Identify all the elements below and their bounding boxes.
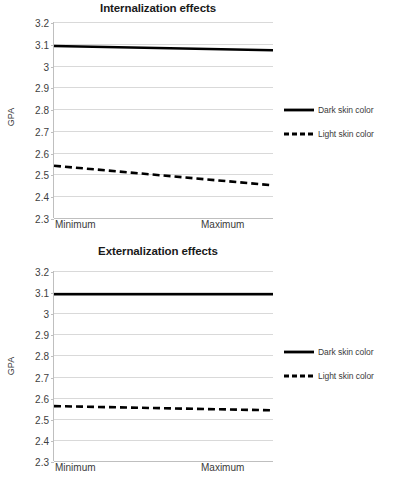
x-axis-labels-internalization: Minimum Maximum <box>53 219 285 235</box>
legend-label-light-skin-color: Light skin color <box>318 371 374 381</box>
y-tick-label: 2.7 <box>35 126 49 137</box>
legend-dashed-line-icon <box>284 371 314 381</box>
y-tick-label: 3.2 <box>35 18 49 29</box>
plot-area-externalization: 3.2 3.1 3 2.9 2.8 2.7 <box>53 271 273 461</box>
y-tick-label: 2.3 <box>35 457 49 468</box>
legend-internalization: Dark skin color Light skin color <box>284 103 396 151</box>
y-tick-label: 3.2 <box>35 267 49 278</box>
series-line-light-skin-color <box>54 166 273 186</box>
y-tick-label: 2.9 <box>35 83 49 94</box>
legend-dashed-line-icon <box>284 129 314 139</box>
panel-externalization: Externalization effects GPA 3.2 3.1 3 2.… <box>0 243 396 485</box>
y-tick-label: 3 <box>43 61 49 72</box>
y-tick-label: 3.1 <box>35 39 49 50</box>
x-axis-labels-externalization: Minimum Maximum <box>53 462 285 478</box>
y-tick-label: 2.5 <box>35 414 49 425</box>
y-tick-label: 2.6 <box>35 148 49 159</box>
x-tick-label-maximum: Maximum <box>201 219 244 230</box>
two-panel-line-chart-figure: Internalization effects GPA 3.2 3.1 3 2.… <box>0 0 396 485</box>
legend-item-light-skin-color: Light skin color <box>284 127 396 140</box>
legend-label-light-skin-color: Light skin color <box>318 129 374 139</box>
series-line-dark-skin-color <box>54 46 273 50</box>
y-tick-label: 2.4 <box>35 192 49 203</box>
y-tick-label: 2.3 <box>35 214 49 225</box>
series-lines-externalization <box>54 271 273 461</box>
y-tick-label: 2.6 <box>35 393 49 404</box>
legend-externalization: Dark skin color Light skin color <box>284 345 396 393</box>
y-tick-label: 2.7 <box>35 372 49 383</box>
series-line-light-skin-color <box>54 406 273 410</box>
y-tick-label: 2.9 <box>35 330 49 341</box>
legend-item-dark-skin-color: Dark skin color <box>284 103 396 116</box>
y-axis-label: GPA <box>6 357 16 375</box>
x-tick-label-minimum: Minimum <box>55 462 96 473</box>
legend-solid-line-icon <box>284 105 314 115</box>
chart-title-internalization: Internalization effects <box>40 2 276 14</box>
y-axis-label: GPA <box>6 108 16 126</box>
panel-internalization: Internalization effects GPA 3.2 3.1 3 2.… <box>0 0 396 242</box>
legend-label-dark-skin-color: Dark skin color <box>318 105 373 115</box>
series-lines-internalization <box>54 22 273 218</box>
y-tick-label: 2.8 <box>35 105 49 116</box>
plot-area-internalization: 3.2 3.1 3 2.9 2.8 2.7 <box>53 22 273 218</box>
legend-label-dark-skin-color: Dark skin color <box>318 347 373 357</box>
x-tick-label-maximum: Maximum <box>201 462 244 473</box>
y-tick-label: 2.8 <box>35 351 49 362</box>
y-tick-label: 3 <box>43 309 49 320</box>
y-tick-label: 2.4 <box>35 435 49 446</box>
y-tick-label: 3.1 <box>35 288 49 299</box>
legend-item-light-skin-color: Light skin color <box>284 369 396 382</box>
y-tick-label: 2.5 <box>35 170 49 181</box>
x-tick-label-minimum: Minimum <box>55 219 96 230</box>
legend-item-dark-skin-color: Dark skin color <box>284 345 396 358</box>
chart-title-externalization: Externalization effects <box>40 245 276 257</box>
legend-solid-line-icon <box>284 347 314 357</box>
